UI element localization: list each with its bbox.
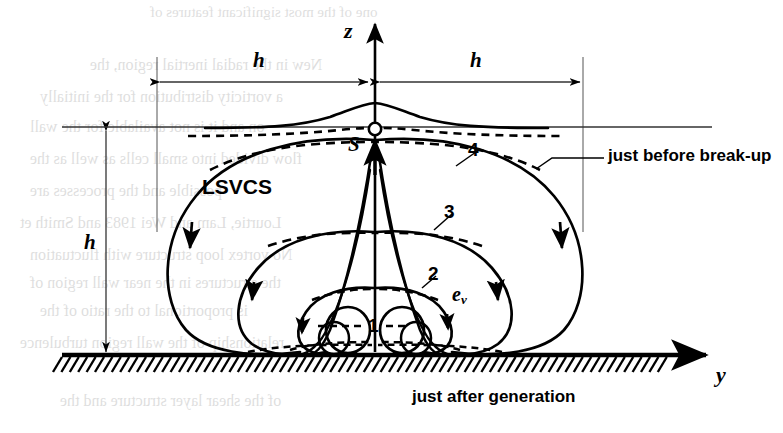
saddle-point-marker xyxy=(369,123,381,135)
vortex-loop-3-arrow-left xyxy=(252,282,254,300)
h-dimension-right-label: h xyxy=(470,50,482,71)
vortex-velocity-symbol: e xyxy=(452,283,461,305)
h-dimension-left-label: h xyxy=(253,50,265,71)
h-dimension-vertical-label: h xyxy=(84,232,96,253)
vortex-loop-4-right xyxy=(376,139,582,354)
wall-hatching xyxy=(53,357,667,372)
vortex-loop-4-dashed-right xyxy=(376,142,540,170)
lsvcs-figure: one of the most significant features ofN… xyxy=(0,0,783,433)
z-axis-label: z xyxy=(344,20,353,42)
dimension-extension-lines xyxy=(157,57,583,232)
vortex-loop-4-label: 4 xyxy=(468,140,479,159)
vortex-velocity-subscript: v xyxy=(461,292,467,307)
saddle-point-label: S xyxy=(348,134,360,155)
annotation-just-after-generation: just after generation xyxy=(412,388,575,405)
vortex-loop-4-arrow-left xyxy=(190,222,192,248)
vortex-loop-3-arrow-right xyxy=(496,282,498,300)
vortex-loop-4-left xyxy=(168,139,374,354)
diagram-canvas xyxy=(0,0,783,433)
vortex-loop-2-arrow-left xyxy=(302,318,303,332)
vortex-velocity-label: ev xyxy=(452,284,467,306)
vortex-loop-4-arrow-right xyxy=(560,222,562,248)
vortex-loop-2-arrow-right xyxy=(447,314,448,328)
vortex-filament-left-inner xyxy=(306,150,372,356)
vortex-loop-3-label: 3 xyxy=(444,202,455,221)
lsvcs-label: LSVCS xyxy=(202,176,272,197)
vortex-loop-2-label: 2 xyxy=(428,264,439,283)
vortex-loop-1-label: 1 xyxy=(368,316,379,335)
annotation-just-before-break-up: just before break-up xyxy=(608,147,771,164)
break-up-leader-line xyxy=(536,158,604,169)
y-axis-label: y xyxy=(716,364,726,386)
